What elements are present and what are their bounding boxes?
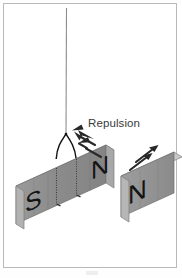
suspended-magnet-left-end-face [16, 186, 24, 229]
thread-line [66, 8, 67, 134]
thread-knot [65, 133, 68, 136]
thread-fork-right [66, 134, 76, 159]
magnetic-repulsion-diagram: S N N [0, 0, 182, 278]
thread-fork-left [56, 134, 66, 159]
suspension-thread-group [56, 8, 76, 159]
repulsion-annotation: Repulsion [88, 117, 140, 129]
fixed-magnet: N [121, 152, 182, 222]
suspended-magnet: S N [16, 145, 114, 229]
footer-mark [86, 271, 98, 275]
figure-canvas: S N N [0, 0, 182, 278]
right-force-arrow-upper [136, 145, 159, 162]
